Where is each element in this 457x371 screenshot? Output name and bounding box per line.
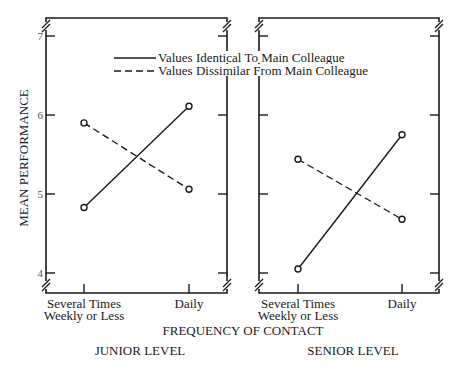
panel-title: SENIOR LEVEL — [307, 343, 398, 358]
y-tick-label: 4 — [38, 267, 44, 279]
panel-title: JUNIOR LEVEL — [95, 343, 186, 358]
data-point-solid — [295, 266, 301, 272]
series-line-dashed — [298, 159, 402, 219]
y-tick-label: 7 — [38, 30, 44, 42]
y-tick-label: 6 — [38, 109, 44, 121]
y-axis-label: MEAN PERFORMANCE — [16, 89, 31, 227]
data-point-dashed — [186, 186, 192, 192]
series-line-solid — [298, 135, 402, 269]
x-tick-label: Weekly or Less — [258, 308, 339, 323]
top-axis — [259, 18, 439, 22]
x-tick-label: Daily — [388, 296, 417, 311]
bottom-axis — [46, 289, 227, 293]
data-point-solid — [399, 132, 405, 138]
legend: Values Identical To Main ColleagueValues… — [112, 50, 382, 78]
y-tick-label: 5 — [38, 188, 44, 200]
bottom-axis — [259, 289, 439, 293]
data-point-solid — [186, 103, 192, 109]
x-tick-label: Weekly or Less — [44, 308, 125, 323]
legend-label: Values Dissimilar From Main Colleague — [158, 63, 368, 78]
data-point-dashed — [81, 120, 87, 126]
top-axis — [46, 18, 227, 22]
interaction-chart: MEAN PERFORMANCE 4567Several TimesWeekly… — [0, 0, 457, 371]
data-point-dashed — [399, 216, 405, 222]
series-line-solid — [84, 106, 189, 207]
data-point-solid — [81, 204, 87, 210]
x-axis-label: FREQUENCY OF CONTACT — [163, 323, 324, 338]
x-tick-label: Daily — [175, 296, 204, 311]
data-point-dashed — [295, 156, 301, 162]
